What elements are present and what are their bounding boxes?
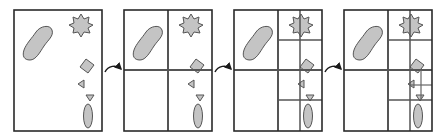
- frame-step-2: [124, 10, 212, 131]
- frame-step-1: [14, 10, 102, 131]
- arrow-1-to-2: [105, 66, 121, 72]
- frame-step-4: [344, 10, 432, 131]
- arrow-3-to-4: [325, 66, 341, 72]
- quadtree-diagram: [0, 0, 444, 139]
- arrow-2-to-3: [215, 66, 231, 72]
- grid-level-3: [410, 70, 432, 100]
- diagram-canvas: [0, 0, 444, 139]
- frame-step-3: [234, 10, 322, 131]
